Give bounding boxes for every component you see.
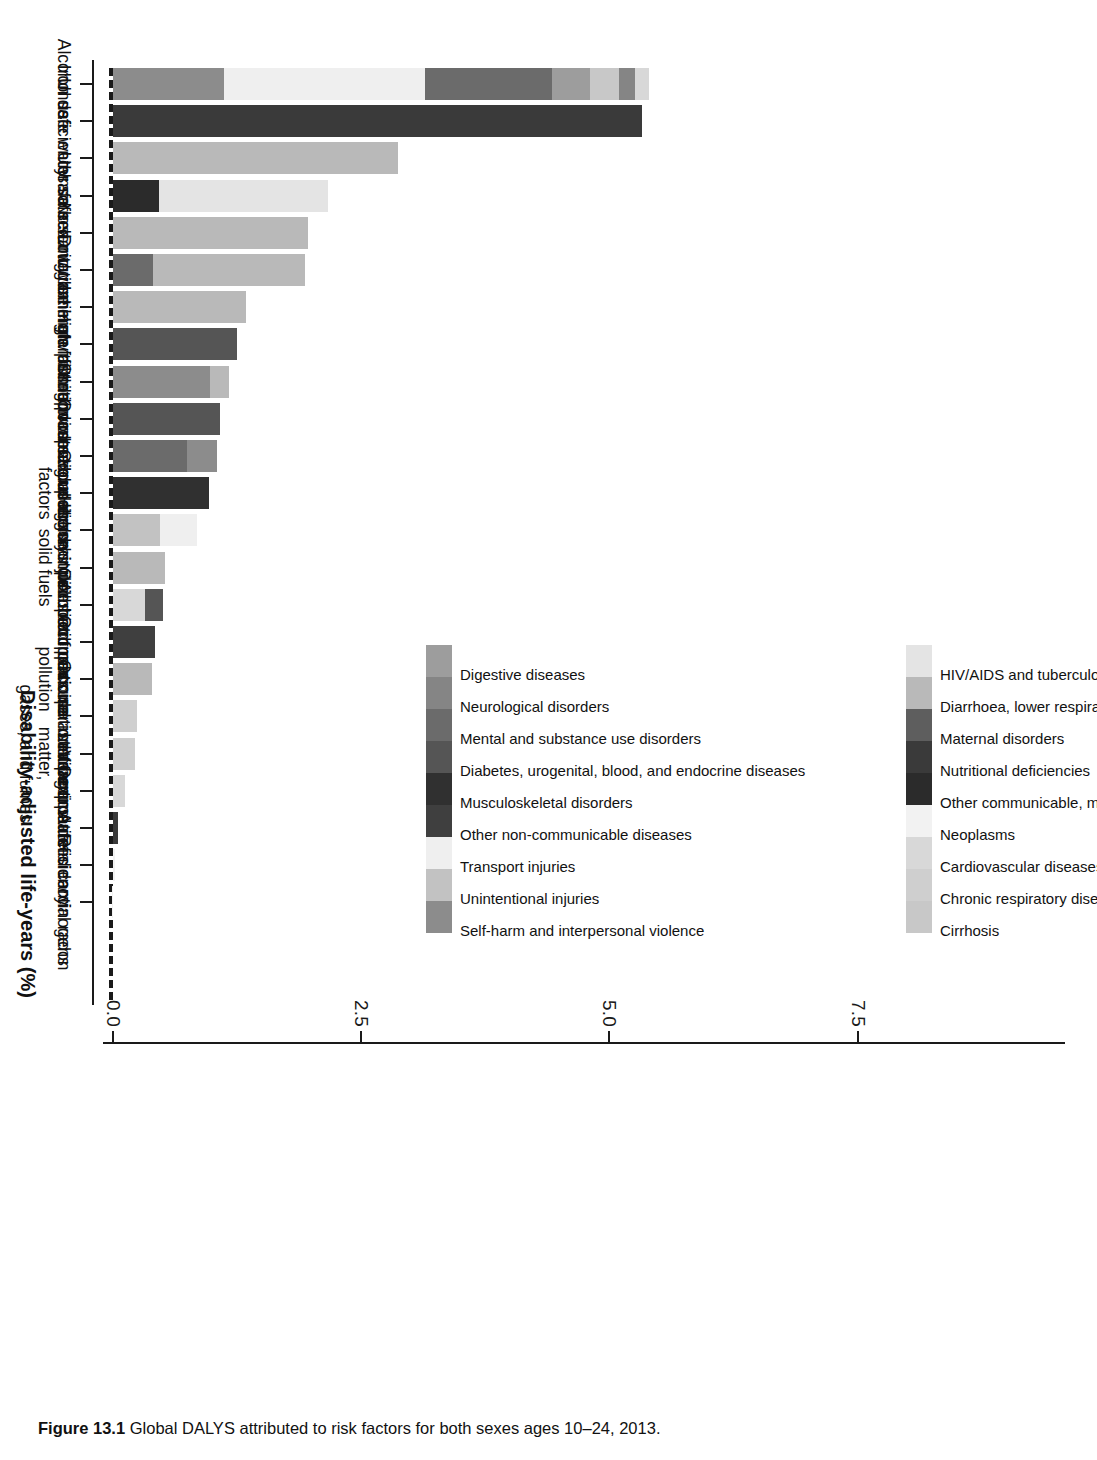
bar-segment (210, 366, 229, 398)
category-tick-mark (80, 753, 94, 755)
category-tick-mark (80, 157, 94, 159)
bar-segment (113, 291, 246, 323)
category-tick-mark (80, 83, 94, 85)
bar-segment (113, 105, 642, 137)
bar-occupational-noise[interactable] (113, 626, 155, 658)
legend-swatch (906, 901, 932, 933)
value-axis-title: Disability-adjusted life-years (%) (16, 690, 39, 998)
bar-ambient-particular-matter-pollution[interactable] (113, 663, 152, 695)
bar-segment (113, 180, 159, 212)
bar-segment (224, 68, 425, 100)
bar-lead-exposure[interactable] (113, 775, 125, 807)
bar-segment (113, 328, 237, 360)
bar-segment (187, 440, 217, 472)
value-tick-label: 5.0 (599, 1000, 621, 1060)
bar-segment (113, 589, 145, 621)
bar-segment (113, 142, 398, 174)
legend-swatch (906, 645, 932, 677)
bar-unsafe-sex[interactable] (113, 180, 328, 212)
category-tick-mark (80, 195, 94, 197)
bar-segment (113, 477, 209, 509)
legend-label: Mental and substance use disorders (460, 730, 701, 747)
category-tick-mark (80, 492, 94, 494)
bar-segment (160, 514, 198, 546)
legend-label: Digestive diseases (460, 666, 585, 683)
bar-segment (113, 775, 125, 807)
legend-swatch (426, 677, 452, 709)
category-tick-mark (80, 604, 94, 606)
value-tick-label: 0.0 (102, 1000, 124, 1060)
bar-segment (153, 254, 305, 286)
bar-household-air-pollution-from-solid-fuels[interactable] (113, 552, 165, 584)
value-tick-label: 2.5 (350, 1000, 372, 1060)
bar-drug-use[interactable] (113, 254, 305, 286)
legend-label: Chronic respiratory diseases (940, 890, 1097, 907)
bar-segment (113, 254, 153, 286)
category-tick-mark (80, 381, 94, 383)
bar-vitamin-a-deficiency[interactable] (113, 812, 118, 844)
bar-segment (113, 217, 308, 249)
legend-label: Diabetes, urogenital, blood, and endocri… (460, 762, 805, 779)
legend-swatch (906, 869, 932, 901)
category-tick-mark (80, 641, 94, 643)
value-axis-line (103, 1042, 1065, 1044)
bar-childhood-sexual-abuse[interactable] (113, 440, 217, 472)
bar-segment (635, 68, 649, 100)
category-tick-mark (80, 678, 94, 680)
category-tick-mark (80, 418, 94, 420)
figure-caption-number: Figure 13.1 (38, 1419, 125, 1437)
legend-swatch (426, 901, 452, 933)
category-tick-mark (80, 567, 94, 569)
bar-occupational-carcinogens[interactable] (113, 849, 115, 881)
bar-segment (113, 514, 160, 546)
legend-swatch (906, 677, 932, 709)
legend-swatch (906, 741, 932, 773)
legend-swatch (906, 805, 932, 837)
bar-high-fasting-plasma-glucose[interactable] (113, 403, 220, 435)
bar-occupational-ergonomic-factors[interactable] (113, 477, 209, 509)
bar-segment (113, 552, 165, 584)
bar-segment (113, 812, 118, 844)
legend-swatch (426, 869, 452, 901)
bar-unsafe-water-source[interactable] (113, 142, 398, 174)
bar-segment (425, 68, 552, 100)
legend-label: Neoplasms (940, 826, 1015, 843)
bar-high-systolic-blood-pressure[interactable] (113, 589, 163, 621)
bar-no-handwashing-with-soap[interactable] (113, 291, 246, 323)
legend-label: Cirrhosis (940, 922, 999, 939)
figure-caption-text: Global DALYS attributed to risk factors … (130, 1419, 661, 1437)
bar-iron-deficiency[interactable] (113, 105, 642, 137)
bar-segment (113, 403, 220, 435)
bar-segment (113, 440, 187, 472)
bar-segment (159, 180, 329, 212)
bar-segment (112, 886, 114, 918)
legend-label: Other non-communicable diseases (460, 826, 692, 843)
category-tick-mark (80, 455, 94, 457)
figure-rotated-canvas: 0.02.55.07.5 Alcohol useIron deficiencyU… (0, 0, 1097, 1460)
legend-swatch (426, 773, 452, 805)
legend-label: Self-harm and interpersonal violence (460, 922, 704, 939)
category-tick-mark (80, 529, 94, 531)
category-tick-mark (80, 232, 94, 234)
bar-occupational-injuries[interactable] (113, 514, 197, 546)
category-tick-mark (80, 306, 94, 308)
bar-unsafe-sanitation[interactable] (113, 217, 308, 249)
legend-label: Neurological disorders (460, 698, 609, 715)
legend-swatch (426, 709, 452, 741)
bar-intimate-partner-violence[interactable] (113, 366, 229, 398)
bar-occupational-asthmagens[interactable] (113, 700, 137, 732)
figure-caption: Figure 13.1 Global DALYS attributed to r… (38, 1419, 660, 1438)
legend-swatch (426, 837, 452, 869)
bar-segment (145, 589, 163, 621)
category-tick-mark (80, 901, 94, 903)
bar-segment (113, 849, 115, 881)
bar-chart-plot: 0.02.55.07.5 Alcohol useIron deficiencyU… (0, 0, 1097, 1460)
bar-occupational-particulate-matter-gases-and-fumes[interactable] (113, 738, 135, 770)
legend-swatch (906, 709, 932, 741)
bar-residential-radon[interactable] (112, 886, 114, 918)
bar-low-glomerular-filtration-rate[interactable] (113, 328, 237, 360)
legend-label: Maternal disorders (940, 730, 1064, 747)
bar-alcohol-use[interactable] (113, 68, 649, 100)
legend-label: Musculoskeletal disorders (460, 794, 633, 811)
value-tick-label: 7.5 (847, 1000, 869, 1060)
